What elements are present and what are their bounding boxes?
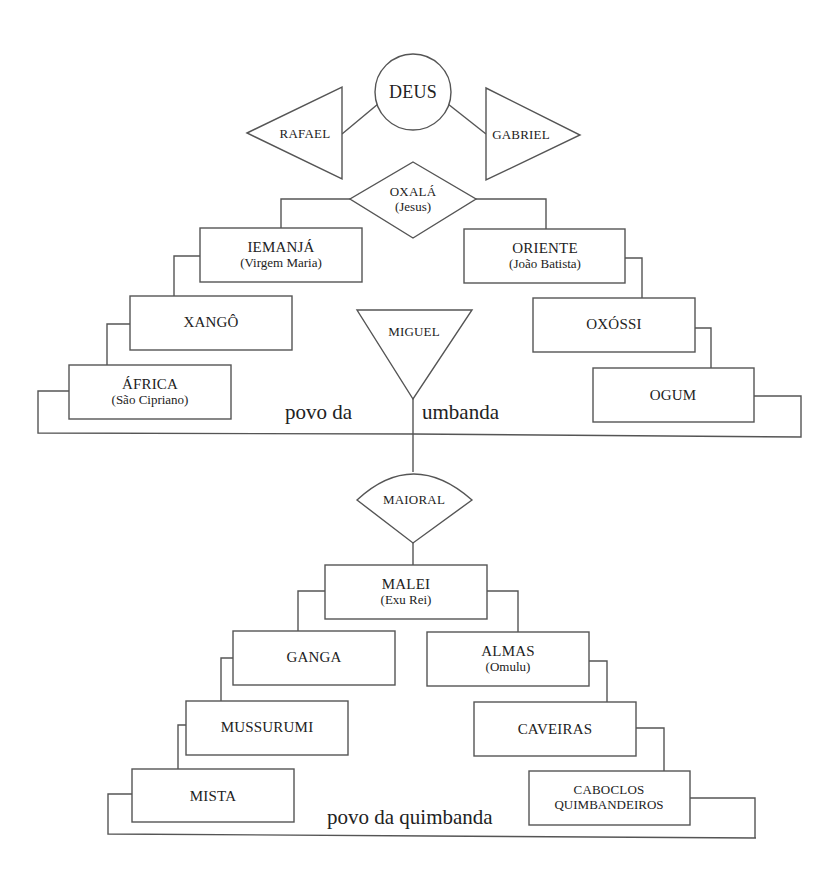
mussurumi-label: MUSSURUMI	[221, 719, 314, 736]
connector-caboclos-base	[690, 798, 755, 838]
caboclos-label: CABOCLOS QUIMBANDEIROS	[554, 783, 663, 813]
caboclos-name: CABOCLOS	[554, 783, 663, 798]
oriente-alias: (João Batista)	[509, 257, 581, 272]
almas-alias: (Omulu)	[481, 660, 535, 675]
oxala-alias: (Jesus)	[390, 200, 437, 215]
oriente-name: ORIENTE	[509, 240, 581, 257]
miguel-label: MIGUEL	[388, 325, 440, 340]
umbanda-caption-right: umbanda	[422, 400, 499, 425]
maioral-shape	[357, 474, 472, 543]
rafael-text: RAFAEL	[280, 127, 331, 142]
connector-iemanja-xango	[174, 256, 200, 296]
xango-label: XANGÔ	[183, 314, 238, 331]
africa-label: ÁFRICA (São Cipriano)	[112, 376, 189, 408]
africa-alias: (São Cipriano)	[112, 393, 189, 408]
connector-oxala-oriente	[476, 199, 546, 229]
connector-mussurumi-mista	[178, 725, 186, 769]
oxossi-label: OXÓSSI	[586, 316, 641, 333]
mista-label: MISTA	[190, 788, 236, 805]
gabriel-text: GABRIEL	[492, 128, 550, 143]
connector-caveiras-caboclos	[636, 728, 664, 771]
mussurumi-name: MUSSURUMI	[221, 719, 314, 736]
malei-alias: (Exu Rei)	[381, 593, 432, 608]
miguel-text: MIGUEL	[388, 325, 440, 340]
xango-name: XANGÔ	[183, 314, 238, 331]
connector-malei-almas	[487, 591, 518, 632]
connector-ganga-mussurumi	[221, 658, 233, 701]
quimbanda-caption: povo da quimbanda	[327, 805, 493, 830]
connector-deus-rafael	[342, 104, 378, 134]
iemanja-label: IEMANJÁ (Virgem Maria)	[240, 239, 322, 271]
malei-label: MALEI (Exu Rei)	[381, 576, 432, 608]
oriente-label: ORIENTE (João Batista)	[509, 240, 581, 272]
almas-name: ALMAS	[481, 643, 535, 660]
maioral-text: MAIORAL	[383, 493, 445, 508]
iemanja-alias: (Virgem Maria)	[240, 256, 322, 271]
caveiras-name: CAVEIRAS	[518, 721, 593, 738]
deus-text: DEUS	[389, 82, 437, 103]
malei-name: MALEI	[381, 576, 432, 593]
connector-oriente-oxossi	[625, 258, 642, 298]
connector-deus-gabriel	[448, 104, 486, 134]
ogum-name: OGUM	[650, 387, 697, 404]
oxala-name: OXALÁ	[390, 185, 437, 200]
caveiras-label: CAVEIRAS	[518, 721, 593, 738]
rafael-label: RAFAEL	[280, 127, 331, 142]
connector-xango-africa	[107, 324, 130, 365]
hierarchy-diagram: DEUS RAFAEL GABRIEL OXALÁ (Jesus) IEMANJ…	[0, 0, 834, 875]
connector-oxossi-ogum	[695, 328, 711, 368]
africa-name: ÁFRICA	[112, 376, 189, 393]
diagram-shapes	[0, 0, 834, 875]
connector-malei-ganga	[298, 591, 325, 631]
deus-label: DEUS	[389, 82, 437, 103]
connector-oxala-iemanja	[281, 199, 350, 228]
almas-label: ALMAS (Omulu)	[481, 643, 535, 675]
maioral-label: MAIORAL	[383, 493, 445, 508]
umbanda-caption-left: povo da	[285, 400, 352, 425]
ganga-name: GANGA	[286, 649, 341, 666]
gabriel-label: GABRIEL	[492, 128, 550, 143]
caboclos-subname: QUIMBANDEIROS	[554, 798, 663, 813]
oxossi-name: OXÓSSI	[586, 316, 641, 333]
ogum-label: OGUM	[650, 387, 697, 404]
ganga-label: GANGA	[286, 649, 341, 666]
oxala-label: OXALÁ (Jesus)	[390, 185, 437, 215]
iemanja-name: IEMANJÁ	[240, 239, 322, 256]
mista-name: MISTA	[190, 788, 236, 805]
connector-almas-caveiras	[589, 661, 607, 702]
